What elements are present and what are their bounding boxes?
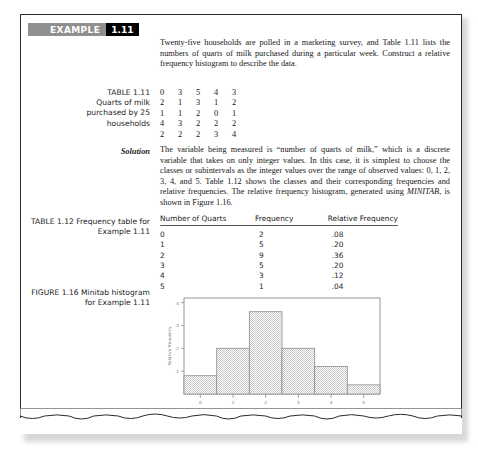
data-cell: 1: [160, 109, 178, 119]
table-row: 43.12: [160, 270, 398, 280]
column-header-frequency: Frequency: [245, 214, 314, 226]
table-row: 35.20: [160, 260, 398, 270]
data-cell: 3: [214, 130, 232, 140]
table-row: 11201: [160, 109, 250, 119]
table-1-12-caption-line: TABLE 1.12: [31, 217, 74, 226]
data-cell: 0: [160, 88, 178, 98]
table-row: 21312: [160, 98, 250, 108]
data-cell: 4: [232, 130, 250, 140]
cell-quarts: 0: [160, 226, 245, 240]
x-axis-tick-label: 2: [264, 400, 267, 405]
histogram-bar: [249, 312, 282, 394]
data-cell: 1: [178, 98, 196, 108]
histogram-bar: [217, 348, 250, 394]
data-cell: 4: [214, 88, 232, 98]
cell-relative-frequency: .20: [314, 239, 398, 249]
table-1-12-caption: TABLE 1.12 Frequency table for Example 1…: [28, 217, 150, 237]
data-cell: 2: [214, 119, 232, 129]
cell-quarts: 2: [160, 249, 245, 259]
solution-label: Solution: [28, 147, 150, 157]
table-1-11-caption-line: households: [28, 119, 150, 129]
table-1-11-caption-line: Quarts of milk: [28, 98, 150, 108]
x-axis-tick-label: 5: [362, 400, 365, 405]
frequency-table-head: Number of Quarts Frequency Relative Freq…: [160, 214, 398, 226]
cell-frequency: 2: [245, 226, 314, 240]
histogram-bar: [184, 376, 217, 394]
data-cell: 2: [232, 119, 250, 129]
data-cell: 5: [196, 88, 214, 98]
table-row: 02.08: [160, 226, 398, 240]
cell-relative-frequency: .20: [314, 260, 398, 270]
x-axis-tick-label: 3: [297, 400, 300, 405]
cell-relative-frequency: .36: [314, 249, 398, 259]
histogram-bar: [282, 348, 315, 394]
column-header-relative-frequency: Relative Frequency: [314, 214, 398, 226]
cell-frequency: 9: [245, 249, 314, 259]
table-row: 29.36: [160, 249, 398, 259]
table-header-row: Number of Quarts Frequency Relative Freq…: [160, 214, 398, 226]
data-cell: 2: [160, 130, 178, 140]
y-axis-label: Relative frequency: [167, 326, 172, 366]
data-cell: 4: [160, 119, 178, 129]
cell-quarts: 4: [160, 270, 245, 280]
y-axis-tick-label: .1: [175, 369, 179, 374]
column-header-quarts: Number of Quarts: [160, 214, 245, 226]
y-axis-tick-label: .2: [175, 346, 179, 351]
figure-caption-line: for Example 1.11: [85, 298, 150, 307]
data-cell: 3: [178, 88, 196, 98]
table-1-11-data: 0354321312112014322222234: [160, 88, 250, 140]
cell-quarts: 3: [160, 260, 245, 270]
table-1-12-caption-line: Example 1.11: [98, 227, 150, 236]
data-cell: 0: [214, 109, 232, 119]
x-axis-tick-label: 0: [199, 400, 202, 405]
histogram-bar: [347, 385, 380, 394]
y-axis-tick-label: .4: [175, 301, 179, 306]
cell-frequency: 3: [245, 270, 314, 280]
minitab-mention: MINITAB: [407, 187, 439, 196]
cell-relative-frequency: .08: [314, 226, 398, 240]
raw-data-table: 0354321312112014322222234: [160, 88, 250, 140]
figure-caption-line: FIGURE 1.16: [31, 288, 78, 297]
cell-frequency: 5: [245, 260, 314, 270]
torn-page-edge: [20, 408, 462, 434]
page-content: EXAMPLE 1.11 Twenty-five households are …: [20, 14, 462, 410]
table-row: 43222: [160, 119, 250, 129]
cell-relative-frequency: .12: [314, 270, 398, 280]
intro-paragraph: Twenty-five households are polled in a m…: [160, 38, 450, 70]
figure-caption-line: Minitab histogram: [81, 288, 150, 297]
data-cell: 1: [178, 109, 196, 119]
x-axis-tick-label: 1: [232, 400, 235, 405]
cell-quarts: 1: [160, 239, 245, 249]
data-cell: 1: [214, 98, 232, 108]
data-cell: 3: [196, 98, 214, 108]
example-header: EXAMPLE 1.11: [28, 23, 139, 36]
histogram-bar: [315, 367, 348, 394]
table-row: 03543: [160, 88, 250, 98]
table-row: 15.20: [160, 239, 398, 249]
table-1-11-caption: TABLE 1.11 Quarts of milk purchased by 2…: [28, 88, 150, 129]
data-cell: 2: [160, 98, 178, 108]
data-cell: 2: [196, 119, 214, 129]
table-row: 22234: [160, 130, 250, 140]
example-label: EXAMPLE: [28, 23, 106, 36]
frequency-table: Number of Quarts Frequency Relative Freq…: [160, 214, 398, 291]
data-cell: 1: [232, 109, 250, 119]
data-cell: 2: [196, 109, 214, 119]
data-cell: 2: [178, 130, 196, 140]
data-cell: 2: [196, 130, 214, 140]
solution-paragraph: The variable being measured is “number o…: [160, 145, 450, 209]
example-number-badge: 1.11: [106, 23, 138, 36]
table-1-11-caption-line: purchased by 25: [28, 108, 150, 118]
figure-1-16-caption: FIGURE 1.16 Minitab histogram for Exampl…: [28, 288, 150, 308]
y-axis-tick-label: .3: [175, 323, 179, 328]
data-cell: 2: [232, 98, 250, 108]
textbook-page: EXAMPLE 1.11 Twenty-five households are …: [20, 14, 462, 434]
data-cell: 3: [178, 119, 196, 129]
relative-frequency-histogram: .1.2.3.4012345QuartsRelative frequency: [160, 290, 412, 410]
table-1-12-caption-line: Frequency table for: [76, 217, 150, 226]
table-1-12-wrapper: Number of Quarts Frequency Relative Freq…: [160, 214, 398, 291]
table-1-11-caption-line: TABLE 1.11: [28, 88, 150, 98]
cell-frequency: 5: [245, 239, 314, 249]
frequency-table-body: 02.0815.2029.3635.2043.1251.04: [160, 226, 398, 291]
data-cell: 3: [232, 88, 250, 98]
